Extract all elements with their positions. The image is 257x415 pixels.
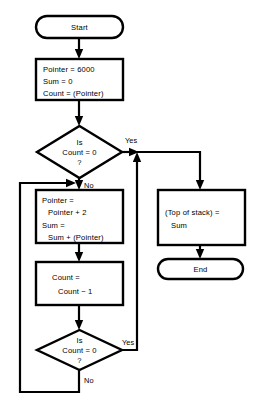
node-decision-bottom[interactable]: Is Count = 0 ?	[37, 330, 122, 370]
connector-decision-bottom-yes	[122, 152, 141, 350]
store-process-shape	[158, 190, 245, 245]
decision-top-line-2: Count = 0	[62, 148, 97, 157]
node-store[interactable]: (Top of stack) = Sum	[158, 190, 245, 245]
edge-label-bottom-no: No	[84, 376, 94, 385]
decrement-line-1: Count =	[52, 273, 80, 282]
end-label: End	[194, 265, 208, 274]
store-line-2: Sum	[171, 221, 187, 230]
flowchart-diagram: Start Pointer = 6000 Sum = 0 Count = (Po…	[0, 0, 257, 415]
start-label: Start	[71, 23, 89, 32]
connector-decision-top-yes	[122, 148, 204, 190]
store-line-1: (Top of stack) =	[165, 208, 220, 217]
accumulate-line-4: Sum + (Pointer)	[48, 233, 104, 242]
decision-top-line-3: ?	[77, 158, 81, 167]
accumulate-line-2: Pointer + 2	[48, 208, 87, 217]
connector-store-to-end	[196, 245, 204, 259]
flowchart-canvas: Start Pointer = 6000 Sum = 0 Count = (Po…	[0, 0, 257, 415]
connector-decision-top-no	[75, 178, 83, 190]
init-line-1: Pointer = 6000	[43, 65, 95, 74]
init-line-2: Sum = 0	[43, 77, 73, 86]
decision-bottom-line-3: ?	[77, 356, 81, 365]
init-line-3: Count = (Pointer)	[43, 89, 104, 98]
decrement-process-shape	[36, 262, 123, 305]
decision-bottom-line-1: Is	[76, 336, 82, 345]
node-init[interactable]: Pointer = 6000 Sum = 0 Count = (Pointer)	[36, 59, 123, 100]
node-decision-top[interactable]: Is Count = 0 ?	[37, 126, 122, 178]
decrement-line-2: Count − 1	[58, 287, 93, 296]
decision-top-line-1: Is	[76, 138, 82, 147]
accumulate-line-3: Sum =	[42, 221, 65, 230]
edge-label-bottom-yes: Yes	[122, 338, 135, 347]
accumulate-line-1: Pointer =	[42, 196, 74, 205]
decision-bottom-line-2: Count = 0	[62, 346, 97, 355]
node-decrement[interactable]: Count = Count − 1	[36, 262, 123, 305]
connector-start-to-init	[75, 38, 83, 59]
connector-accumulate-to-decrement	[75, 243, 83, 262]
node-start[interactable]: Start	[36, 16, 123, 38]
edge-label-top-no: No	[84, 181, 94, 190]
connector-decrement-to-decision-bottom	[75, 305, 83, 330]
node-accumulate[interactable]: Pointer = Pointer + 2 Sum = Sum + (Point…	[36, 190, 123, 243]
node-end[interactable]: End	[158, 259, 243, 279]
connector-init-to-decision-top	[75, 100, 83, 126]
edge-label-top-yes: Yes	[125, 136, 138, 145]
